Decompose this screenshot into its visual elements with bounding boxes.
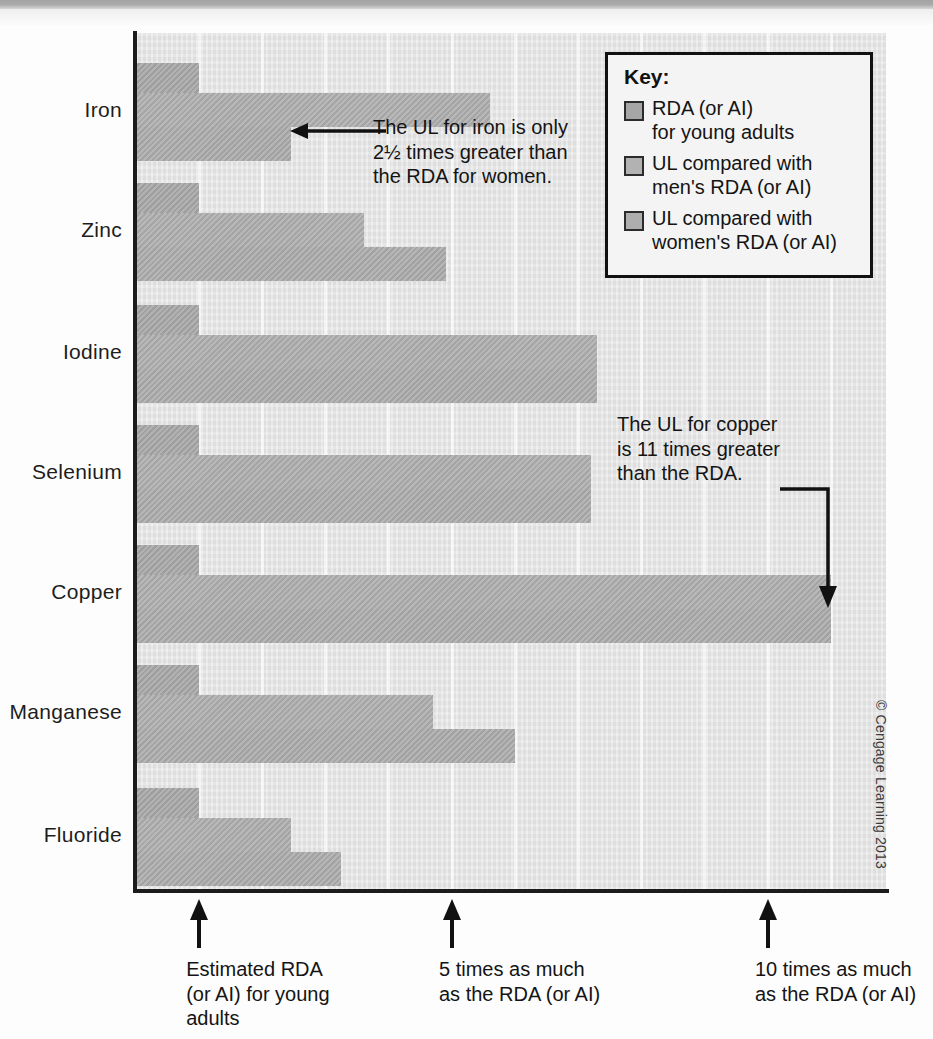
- bar: [136, 247, 446, 281]
- bar: [136, 729, 515, 763]
- bar: [136, 489, 591, 523]
- x-axis-tick-arrow-icon: [186, 898, 212, 950]
- legend-swatch-icon-ul-women: [624, 211, 644, 231]
- x-axis-note-10x: 10 times as much as the RDA (or AI): [755, 957, 916, 1006]
- category-label-iodine: Iodine: [63, 340, 122, 364]
- category-label-manganese: Manganese: [10, 700, 122, 724]
- bar: [136, 818, 291, 852]
- bar: [136, 455, 591, 489]
- bar: [136, 788, 199, 818]
- bar: [136, 335, 597, 369]
- x-axis-note-5x: 5 times as much as the RDA (or AI): [439, 957, 600, 1006]
- legend-item-rda: RDA (or AI) for young adults: [624, 96, 856, 144]
- legend-title: Key:: [624, 65, 856, 89]
- legend-key-box: Key: RDA (or AI) for young adults UL com…: [605, 52, 873, 278]
- x-axis-tick-arrow-icon: [755, 898, 781, 950]
- page-top-band-fade: [0, 9, 933, 25]
- bar: [136, 63, 199, 93]
- bar: [136, 609, 831, 643]
- bar: [136, 665, 199, 695]
- category-label-selenium: Selenium: [32, 460, 122, 484]
- legend-label-ul-men: UL compared with men's RDA (or AI): [652, 151, 812, 199]
- x-axis-note-1x: Estimated RDA (or AI) for young adults: [186, 957, 329, 1031]
- bar: [136, 695, 433, 729]
- annotation-copper-text: The UL for copper is 11 times greater th…: [617, 412, 780, 486]
- page-top-band: [0, 0, 933, 9]
- bar: [136, 545, 199, 575]
- bar: [136, 127, 291, 161]
- chart-page: IronZincIodineSeleniumCopperManganeseFlu…: [0, 0, 933, 1039]
- bar: [136, 425, 199, 455]
- bar: [136, 305, 199, 335]
- legend-item-ul-men: UL compared with men's RDA (or AI): [624, 151, 856, 199]
- bar: [136, 852, 341, 886]
- legend-label-ul-women: UL compared with women's RDA (or AI): [652, 206, 837, 254]
- legend-swatch-icon-rda: [624, 101, 644, 121]
- category-labels: IronZincIodineSeleniumCopperManganeseFlu…: [0, 0, 130, 1039]
- bar: [136, 213, 364, 247]
- category-label-iron: Iron: [85, 98, 122, 122]
- copyright-notice: © Cengage Learning 2013: [873, 700, 889, 869]
- bar: [136, 183, 199, 213]
- legend-item-ul-women: UL compared with women's RDA (or AI): [624, 206, 856, 254]
- bar: [136, 575, 831, 609]
- bar: [136, 369, 597, 403]
- annotation-iron-arrow-icon: [288, 120, 388, 142]
- annotation-iron-text: The UL for iron is only 2½ times greater…: [373, 115, 568, 189]
- category-label-copper: Copper: [51, 580, 122, 604]
- category-label-fluoride: Fluoride: [44, 823, 122, 847]
- y-axis-line: [133, 31, 137, 893]
- x-axis-tick-arrow-icon: [439, 898, 465, 950]
- legend-swatch-icon-ul-men: [624, 156, 644, 176]
- category-label-zinc: Zinc: [81, 218, 122, 242]
- legend-label-rda: RDA (or AI) for young adults: [652, 96, 794, 144]
- x-axis-line: [133, 889, 889, 893]
- annotation-copper-arrow-icon: [778, 480, 918, 615]
